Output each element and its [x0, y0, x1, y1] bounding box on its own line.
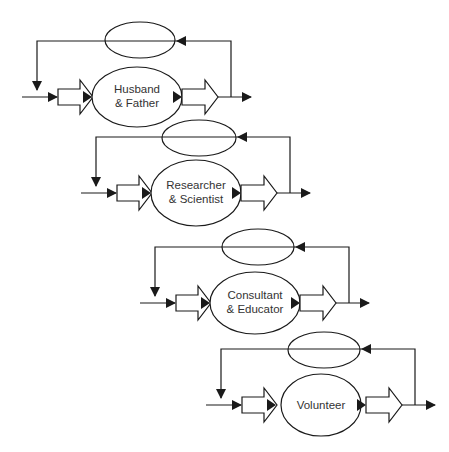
role-label-line1: Husband [114, 83, 160, 95]
output-block-arrow-icon [300, 286, 336, 320]
block-researcher-scientist: Researcher & Scientist [81, 120, 310, 226]
output-arrowhead-icon [357, 399, 366, 411]
role-label-line2: & Educator [227, 303, 284, 315]
block-husband-father: Husband & Father [22, 22, 251, 127]
role-label-line1: Consultant [228, 289, 284, 301]
feedback-arrow-icon [361, 344, 371, 354]
block-volunteer: Volunteer [206, 332, 435, 436]
output-block-arrow-icon [182, 80, 218, 114]
role-label-line1: Researcher [166, 179, 226, 191]
block-consultant-educator: Consultant & Educator [140, 229, 369, 334]
feedback-ellipse [105, 22, 175, 58]
role-label-line2: & Scientist [169, 193, 224, 205]
feedback-arrow-icon [176, 36, 186, 46]
feedback-ellipse [162, 120, 236, 156]
feedback-arrow-icon [295, 242, 305, 252]
diagram-canvas: Husband & Father Researcher & Scientist … [0, 0, 449, 452]
role-label-line2: & Father [115, 97, 159, 109]
feedback-arrow-icon [237, 132, 247, 142]
feedback-ellipse [288, 332, 360, 368]
output-block-arrow-icon [241, 176, 277, 210]
output-block-arrow-icon [366, 388, 402, 422]
role-label-line1: Volunteer [297, 399, 346, 411]
